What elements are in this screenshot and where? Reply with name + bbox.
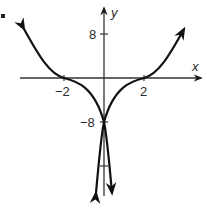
cubic-graph: y x 8 −8 −2 2 [0, 0, 207, 216]
tick-label-y-8: 8 [89, 27, 96, 42]
y-axis-label: y [110, 5, 119, 20]
x-axis-label: x [191, 59, 199, 74]
tick-label-x-2: 2 [140, 84, 147, 99]
tick-label-y-neg8: −8 [80, 115, 95, 130]
tick-label-x-neg2: −2 [55, 84, 70, 99]
